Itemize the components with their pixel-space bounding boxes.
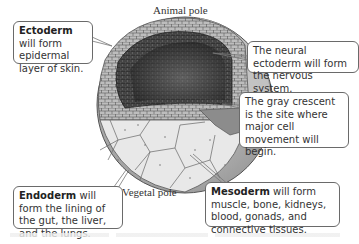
- endoderm-callout: Endoderm will form the lining of the gut…: [13, 186, 123, 229]
- ectoderm-term: Ectoderm: [19, 25, 73, 36]
- gray-crescent-callout: The gray crescent is the site where majo…: [239, 92, 349, 148]
- ectoderm-callout: Ectoderm will form epidermal layer of sk…: [13, 21, 93, 64]
- vegetal-pole-label: Vegetal pole: [122, 186, 177, 198]
- gray-crescent-text: The gray crescent is the site where majo…: [245, 96, 335, 157]
- neural-ectoderm-callout: The neural ectoderm will form the nervou…: [247, 41, 359, 73]
- mesoderm-term: Mesoderm: [211, 186, 270, 197]
- endoderm-term: Endoderm: [19, 190, 76, 201]
- ectoderm-text: will form epidermal layer of skin.: [19, 38, 83, 74]
- mesoderm-callout: Mesoderm will form muscle, bone, kidneys…: [205, 182, 340, 227]
- animal-pole-label: Animal pole: [153, 4, 208, 16]
- faded-caption-line: [10, 233, 340, 237]
